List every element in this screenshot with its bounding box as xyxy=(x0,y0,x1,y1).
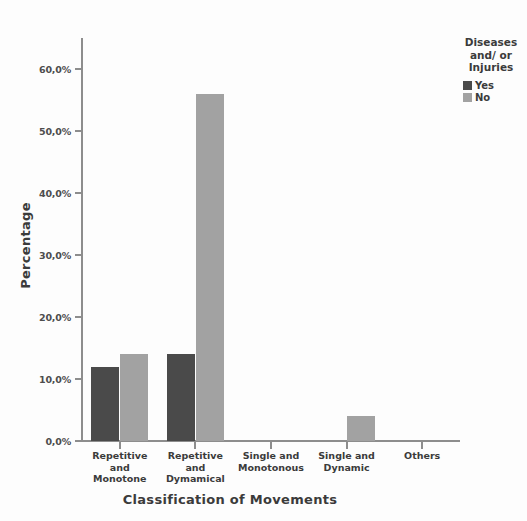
y-axis-tick-mark xyxy=(75,316,82,318)
legend-item-label: Yes xyxy=(475,80,494,91)
y-axis-tick-mark xyxy=(75,440,82,442)
y-axis-tick-label: 0,0% xyxy=(45,436,71,447)
y-axis-tick-label: 20,0% xyxy=(39,312,71,323)
bar-yes-0 xyxy=(91,367,119,441)
bar-no-3 xyxy=(347,416,375,441)
y-axis-tick-label: 50,0% xyxy=(39,126,71,137)
y-axis-tick-label: 30,0% xyxy=(39,250,71,261)
chart-figure: 0,0%10,0%20,0%30,0%40,0%50,0%60,0% Repet… xyxy=(0,0,527,521)
x-axis-category-label: Repetitive and Monotone xyxy=(82,450,158,485)
x-axis-title: Classification of Movements xyxy=(0,492,460,507)
legend-swatch-icon xyxy=(463,81,472,90)
y-axis-tick-label: 10,0% xyxy=(39,374,71,385)
y-axis-tick-mark xyxy=(75,378,82,380)
legend-swatch-icon xyxy=(463,93,472,102)
legend-item-label: No xyxy=(475,92,490,103)
legend-item-no[interactable]: No xyxy=(455,92,527,103)
y-axis-tick-label: 60,0% xyxy=(39,64,71,75)
x-axis-tick-mark xyxy=(194,442,196,449)
y-axis-tick-mark xyxy=(75,254,82,256)
legend-title: Diseases and/ or Injuries xyxy=(455,36,527,74)
x-axis-tick-mark xyxy=(270,442,272,449)
legend: Diseases and/ or Injuries YesNo xyxy=(455,36,527,103)
x-axis-tick-mark xyxy=(346,442,348,449)
y-axis-tick-mark xyxy=(75,130,82,132)
x-axis-category-label: Others xyxy=(384,450,460,462)
x-axis-category-label: Single and Monotonous xyxy=(233,450,309,473)
y-axis-tick-mark xyxy=(75,192,82,194)
x-axis-tick-mark xyxy=(421,442,423,449)
x-axis-category-label: Single and Dynamic xyxy=(309,450,385,473)
bar-no-1 xyxy=(196,94,224,441)
y-axis-title: Percentage xyxy=(18,202,33,289)
bar-no-0 xyxy=(120,354,148,441)
plot-area xyxy=(82,38,460,441)
y-axis-tick-label: 40,0% xyxy=(39,188,71,199)
legend-item-yes[interactable]: Yes xyxy=(455,80,527,91)
legend-items: YesNo xyxy=(455,80,527,103)
y-axis-tick-mark xyxy=(75,68,82,70)
x-axis-tick-mark xyxy=(119,442,121,449)
bar-yes-1 xyxy=(167,354,195,441)
x-axis-category-label: Repetitive and Dymamical xyxy=(158,450,234,485)
